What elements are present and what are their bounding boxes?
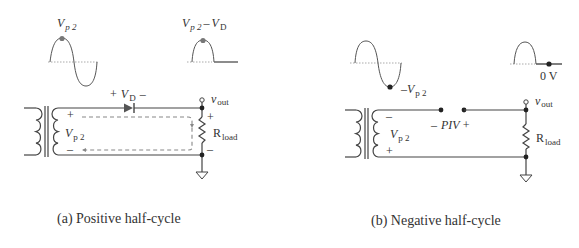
panel-b-negative-half-cycle: –Vp 2 0 V –PIV+ – + Vp 2 bbox=[345, 41, 562, 229]
diode: +VD– bbox=[110, 87, 147, 113]
current-arrow-down bbox=[190, 124, 194, 128]
output-half-wave-waveform: Vp 2–VD bbox=[182, 16, 238, 62]
vout-label: vout bbox=[535, 94, 553, 109]
trough-dot bbox=[387, 84, 392, 89]
transformer bbox=[24, 106, 58, 157]
vout-terminal bbox=[524, 100, 528, 104]
input-peak-label: Vp 2 bbox=[57, 16, 77, 32]
diode-triangle bbox=[124, 104, 133, 113]
secondary-plus: + bbox=[386, 144, 393, 158]
input-sine-waveform: –Vp 2 bbox=[350, 41, 427, 98]
half-wave-curve bbox=[514, 42, 536, 64]
half-wave-rectifier-diagram: Vp 2 Vp 2–VD bbox=[0, 0, 579, 248]
transformer bbox=[345, 108, 378, 159]
output-zero-label: 0 V bbox=[540, 69, 558, 83]
secondary-coil bbox=[52, 108, 58, 155]
secondary-voltage-label: Vp 2 bbox=[65, 126, 85, 142]
panel-a-positive-half-cycle: Vp 2 Vp 2–VD bbox=[24, 16, 238, 227]
output-zero-waveform: 0 V bbox=[510, 42, 562, 83]
load-resistor bbox=[199, 117, 205, 143]
open-terminal-left bbox=[439, 108, 444, 113]
caption-positive-half-cycle: (a) Positive half-cycle bbox=[57, 211, 181, 227]
secondary-minus: – bbox=[385, 109, 393, 123]
load-branch: vout Rload bbox=[520, 94, 561, 182]
load-branch: vout + – Rload bbox=[196, 92, 238, 179]
secondary-plus: + bbox=[67, 108, 74, 122]
input-trough-label: –Vp 2 bbox=[400, 82, 427, 98]
secondary-minus: – bbox=[66, 142, 74, 156]
current-arrow-left bbox=[82, 148, 86, 152]
peak-dot bbox=[59, 36, 64, 41]
peak-dot bbox=[200, 38, 205, 43]
diode-voltage-label: +VD– bbox=[110, 87, 147, 103]
caption-negative-half-cycle: (b) Negative half-cycle bbox=[371, 213, 501, 229]
load-plus: + bbox=[207, 110, 214, 124]
load-minus: – bbox=[206, 142, 214, 156]
half-wave-curve bbox=[192, 40, 214, 62]
ground-icon bbox=[196, 172, 208, 179]
piv-label: –PIV+ bbox=[430, 118, 470, 132]
secondary-coil bbox=[372, 110, 378, 157]
load-resistor-label: Rload bbox=[536, 131, 561, 147]
secondary-voltage-label: Vp 2 bbox=[390, 127, 410, 143]
load-resistor bbox=[523, 124, 529, 149]
primary-coil bbox=[356, 110, 362, 157]
sine-curve bbox=[355, 41, 401, 87]
node-dot-bottom bbox=[524, 155, 529, 160]
node-dot-top bbox=[200, 106, 205, 111]
input-sine-waveform: Vp 2 bbox=[48, 16, 98, 86]
current-path bbox=[82, 117, 192, 150]
vout-terminal bbox=[200, 98, 204, 102]
load-resistor-label: Rload bbox=[213, 126, 238, 142]
zero-dot bbox=[546, 61, 551, 66]
ground-icon bbox=[520, 175, 532, 182]
output-peak-label: Vp 2–VD bbox=[182, 16, 227, 32]
node-dot-bottom bbox=[200, 153, 205, 158]
primary-coil bbox=[36, 108, 42, 155]
vout-label: vout bbox=[211, 92, 229, 107]
node-dot-top bbox=[524, 108, 529, 113]
